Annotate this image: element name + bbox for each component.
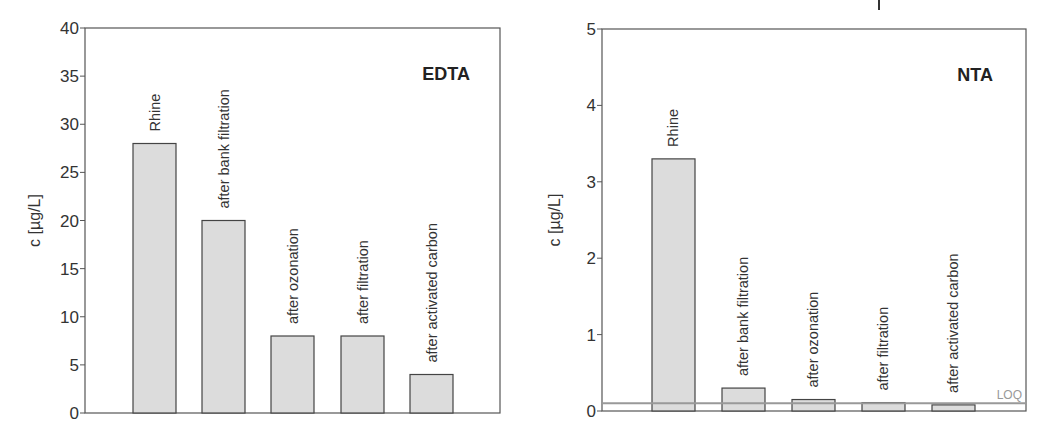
- y-tick-label: 20: [60, 212, 79, 231]
- chart-title: EDTA: [422, 64, 470, 84]
- y-tick-label: 1: [587, 326, 596, 345]
- y-tick-label: 5: [587, 20, 596, 39]
- category-label: after activated carbon: [424, 223, 440, 362]
- y-tick-label: 2: [587, 249, 596, 268]
- bar: [652, 159, 695, 411]
- y-axis-label: c [µg/L]: [26, 194, 43, 247]
- y-axis-label: c [µg/L]: [546, 194, 563, 247]
- category-label: after bank filtration: [736, 257, 752, 376]
- bar: [792, 400, 835, 411]
- y-tick-label: 3: [587, 173, 596, 192]
- bar: [271, 336, 314, 413]
- bar: [341, 336, 384, 413]
- chart-canvas: 0510152025303540c [µg/L]EDTARhineafter b…: [0, 0, 1041, 438]
- loq-label: LOQ: [997, 388, 1022, 402]
- category-label: after ozonation: [285, 228, 301, 324]
- category-label: after ozonation: [806, 292, 822, 388]
- y-tick-label: 4: [587, 96, 596, 115]
- y-tick-label: 25: [60, 163, 79, 182]
- bar: [722, 388, 765, 411]
- y-tick-label: 35: [60, 67, 79, 86]
- category-label: after filtration: [355, 240, 371, 324]
- category-label: after filtration: [876, 307, 892, 391]
- bar: [932, 405, 975, 411]
- y-tick-label: 0: [70, 404, 79, 423]
- bar: [202, 221, 245, 414]
- y-tick-label: 40: [60, 19, 79, 38]
- y-tick-label: 15: [60, 260, 79, 279]
- chart-title: NTA: [957, 65, 993, 85]
- bar: [410, 375, 453, 414]
- category-label: after bank filtration: [216, 89, 232, 208]
- bar: [133, 144, 176, 414]
- y-tick-label: 0: [587, 402, 596, 421]
- category-label: Rhine: [147, 94, 163, 132]
- category-label: Rhine: [666, 109, 682, 147]
- y-tick-label: 30: [60, 115, 79, 134]
- y-tick-label: 5: [70, 356, 79, 375]
- y-tick-label: 10: [60, 308, 79, 327]
- category-label: after activated carbon: [946, 253, 962, 392]
